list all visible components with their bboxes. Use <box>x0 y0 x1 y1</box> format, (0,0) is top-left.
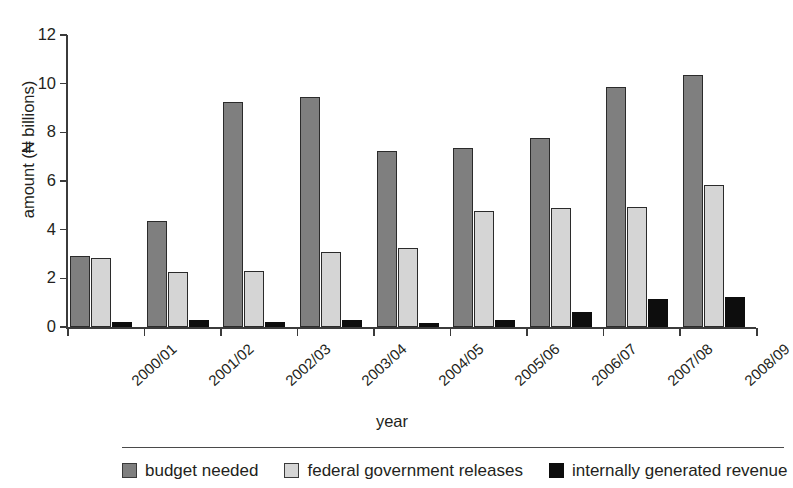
bar-group <box>377 35 439 327</box>
y-tick-mark <box>60 326 67 328</box>
x-tick-mark <box>220 328 222 336</box>
x-tick-mark <box>67 328 69 336</box>
bar-0-2 <box>223 102 243 327</box>
bar-0-6 <box>530 138 550 327</box>
y-tick-mark <box>60 278 67 280</box>
bar-group <box>606 35 668 327</box>
legend-divider <box>122 447 784 448</box>
y-tick-mark <box>60 34 67 36</box>
bar-2-0 <box>112 322 132 327</box>
y-axis-tick-labels: 024681012 <box>16 0 56 340</box>
x-tick-mark <box>373 328 375 336</box>
x-tick-mark <box>297 328 299 336</box>
bar-2-7 <box>648 299 668 327</box>
bar-1-1 <box>168 272 188 327</box>
legend-item[interactable]: federal government releases <box>284 462 522 479</box>
bar-2-8 <box>725 297 745 327</box>
bar-2-6 <box>572 312 592 327</box>
x-tick-label: 2004/05 <box>435 340 487 389</box>
bar-2-4 <box>419 323 439 327</box>
legend-swatch-icon <box>549 463 564 478</box>
x-tick-label: 2006/07 <box>588 340 640 389</box>
y-tick-label: 8 <box>22 123 56 140</box>
bar-group <box>223 35 285 327</box>
bar-0-1 <box>147 221 167 327</box>
y-tick-label: 6 <box>22 172 56 189</box>
bar-2-3 <box>342 320 362 327</box>
bar-0-8 <box>683 75 703 327</box>
bar-1-7 <box>627 207 647 327</box>
x-tick-label: 2008/09 <box>741 340 793 389</box>
x-axis-title: year <box>0 412 784 431</box>
bar-1-2 <box>244 271 264 327</box>
bar-0-7 <box>606 87 626 327</box>
bar-group <box>147 35 209 327</box>
y-tick-label: 12 <box>22 26 56 43</box>
bar-1-0 <box>91 258 111 327</box>
legend-label: budget needed <box>145 462 258 479</box>
legend-swatch-icon <box>122 463 137 478</box>
x-tick-mark <box>526 328 528 336</box>
y-tick-mark <box>60 180 67 182</box>
y-tick-label: 10 <box>22 75 56 92</box>
legend-item[interactable]: budget needed <box>122 462 258 479</box>
bar-0-4 <box>377 151 397 327</box>
y-tick-label: 4 <box>22 221 56 238</box>
bar-group <box>453 35 515 327</box>
bar-1-3 <box>321 252 341 327</box>
plot-area <box>67 35 756 327</box>
y-tick-mark <box>60 83 67 85</box>
bar-1-4 <box>398 248 418 327</box>
x-axis-line <box>66 327 756 329</box>
chart-legend: budget neededfederal government releases… <box>122 455 784 485</box>
x-tick-label: 2001/02 <box>205 340 257 389</box>
legend-swatch-icon <box>284 463 299 478</box>
x-tick-label: 2007/08 <box>664 340 716 389</box>
legend-label: internally generated revenue <box>572 462 787 479</box>
bar-1-5 <box>474 211 494 327</box>
bar-2-2 <box>265 322 285 327</box>
bar-group <box>300 35 362 327</box>
x-tick-label: 2002/03 <box>281 340 333 389</box>
y-tick-label: 0 <box>22 318 56 335</box>
y-tick-mark <box>60 132 67 134</box>
x-tick-mark <box>603 328 605 336</box>
x-tick-label: 2000/01 <box>128 340 180 389</box>
bar-0-3 <box>300 97 320 327</box>
bar-chart: amount (₦ billions) 024681012 2000/01200… <box>0 0 784 440</box>
y-tick-mark <box>60 229 67 231</box>
bar-1-6 <box>551 208 571 327</box>
bar-2-1 <box>189 320 209 327</box>
y-tick-label: 2 <box>22 269 56 286</box>
x-tick-label: 2003/04 <box>358 340 410 389</box>
x-tick-mark <box>144 328 146 336</box>
x-tick-mark <box>756 328 758 336</box>
x-tick-mark <box>679 328 681 336</box>
bar-1-8 <box>704 185 724 327</box>
bar-group <box>683 35 745 327</box>
bar-2-5 <box>495 320 515 327</box>
x-tick-label: 2005/06 <box>511 340 563 389</box>
bar-0-0 <box>70 256 90 327</box>
bar-group <box>530 35 592 327</box>
x-tick-mark <box>450 328 452 336</box>
bar-0-5 <box>453 148 473 327</box>
bar-group <box>70 35 132 327</box>
legend-label: federal government releases <box>307 462 522 479</box>
legend-item[interactable]: internally generated revenue <box>549 462 787 479</box>
